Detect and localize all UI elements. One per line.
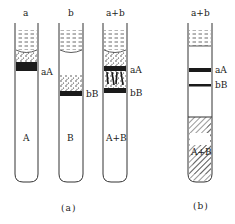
tube-ab2-bottom-label: A+B	[191, 147, 212, 157]
panel-b-caption: (b)	[193, 201, 209, 211]
band-label-aA: aA	[215, 65, 227, 75]
tube-ab-bottom-label: A+B	[106, 133, 127, 143]
tube-ab-top-label: a+b	[106, 8, 125, 18]
band-label-bB: bB	[130, 88, 142, 98]
test-tube-diagram	[0, 0, 235, 224]
tube-b	[59, 23, 83, 182]
tube-b-top-label: b	[68, 8, 74, 18]
tube-a	[15, 23, 38, 182]
tube-a-top-label: a	[23, 8, 28, 18]
panel-a-caption: (a)	[61, 203, 76, 213]
band-label-bB: bB	[86, 89, 98, 99]
tube-b-bottom-label: B	[67, 133, 74, 143]
band-label-bB: bB	[215, 80, 227, 90]
tube-a-plus-b-centrifuged	[188, 23, 212, 182]
tube-ab2-top-label: a+b	[191, 8, 210, 18]
tube-a-bottom-label: A	[23, 133, 30, 143]
band-label-aA: aA	[41, 67, 53, 77]
band-label-aA: aA	[130, 65, 142, 75]
tube-a-plus-b	[103, 23, 127, 182]
